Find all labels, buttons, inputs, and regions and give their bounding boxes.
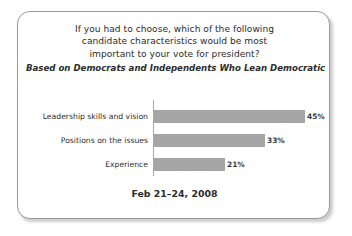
bar-experience <box>154 158 225 171</box>
chart-subtitle: Based on Democrats and Independents Who … <box>26 63 323 74</box>
horizontal-bar-chart: Leadership skills and vision 45% Positio… <box>18 98 329 180</box>
poll-result-card: If you had to choose, which of the follo… <box>17 11 330 219</box>
category-label: Leadership skills and vision <box>8 112 148 122</box>
survey-date: Feb 21–24, 2008 <box>26 188 323 199</box>
bar-row: Leadership skills and vision 45% <box>18 110 329 123</box>
question-line-3: important to your vote for president? <box>26 48 323 60</box>
bar-value-label: 33% <box>267 136 285 145</box>
question-line-1: If you had to choose, which of the follo… <box>26 23 323 35</box>
bar-leadership-skills-and-vision <box>154 110 305 123</box>
question-line-2: candidate characteristics would be most <box>26 35 323 47</box>
bar-row: Experience 21% <box>18 158 329 171</box>
bar-value-label: 21% <box>227 160 245 169</box>
bar-row: Positions on the issues 33% <box>18 134 329 147</box>
bar-positions-on-the-issues <box>154 134 265 147</box>
chart-heading: If you had to choose, which of the follo… <box>26 23 323 74</box>
screenshot-root: If you had to choose, which of the follo… <box>0 0 352 236</box>
bar-value-label: 45% <box>307 112 325 121</box>
category-label: Positions on the issues <box>8 136 148 146</box>
category-label: Experience <box>8 160 148 170</box>
